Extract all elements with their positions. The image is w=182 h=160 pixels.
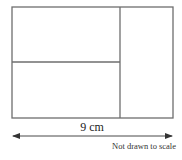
dimension-label: 9 cm [80, 120, 104, 134]
diagram-canvas: 9 cm Not drawn to scale [0, 0, 182, 160]
scale-note: Not drawn to scale [112, 141, 176, 151]
